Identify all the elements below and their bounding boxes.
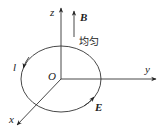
x-axis-label: x: [8, 113, 14, 125]
x-axis: [17, 79, 61, 125]
physics-diagram: z y x O B 均匀 l E: [0, 0, 164, 135]
z-axis-label: z: [49, 6, 55, 18]
origin-label: O: [48, 70, 56, 82]
loop-label: l: [13, 61, 16, 73]
electric-field-arrow: [84, 97, 94, 106]
y-axis-label: y: [144, 63, 150, 75]
magnetic-field-label: B: [79, 11, 87, 23]
electric-field-label: E: [94, 101, 102, 113]
uniform-annotation: 均匀: [79, 36, 99, 47]
